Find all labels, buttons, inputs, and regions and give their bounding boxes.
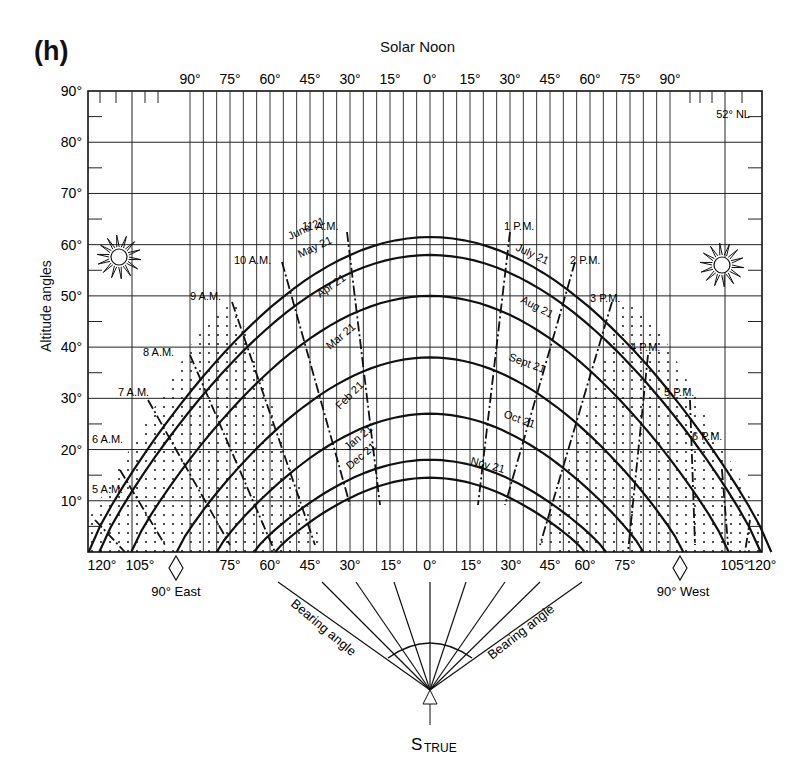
svg-text:75°: 75°: [614, 557, 635, 573]
svg-text:60°: 60°: [259, 71, 280, 87]
svg-text:Apr 21: Apr 21: [314, 271, 347, 299]
bearing-fan: STRUEBearing angleBearing angle: [278, 582, 582, 755]
svg-text:60°: 60°: [259, 557, 280, 573]
svg-text:75°: 75°: [619, 71, 640, 87]
svg-text:8 A.M.: 8 A.M.: [143, 346, 174, 358]
svg-text:50°: 50°: [61, 288, 82, 304]
svg-text:Bearing angle: Bearing angle: [288, 596, 359, 659]
svg-text:15°: 15°: [380, 557, 401, 573]
svg-text:120°: 120°: [88, 557, 117, 573]
svg-text:40°: 40°: [61, 339, 82, 355]
svg-text:30°: 30°: [499, 71, 520, 87]
svg-text:60°: 60°: [579, 71, 600, 87]
svg-text:52° NL: 52° NL: [716, 108, 750, 120]
svg-text:90°: 90°: [179, 71, 200, 87]
svg-text:45°: 45°: [539, 71, 560, 87]
svg-text:1 P.M.: 1 P.M.: [504, 220, 534, 232]
sun-path-chart: 10°20°30°40°50°60°70°80°90°90°75°60°45°3…: [0, 0, 806, 769]
svg-text:75°: 75°: [219, 557, 240, 573]
svg-text:60°: 60°: [61, 237, 82, 253]
svg-text:May 21: May 21: [296, 234, 334, 260]
svg-text:Nov 21: Nov 21: [469, 454, 506, 475]
svg-text:90° East: 90° East: [151, 584, 201, 599]
svg-text:70°: 70°: [61, 185, 82, 201]
svg-text:75°: 75°: [219, 71, 240, 87]
svg-text:30°: 30°: [500, 557, 521, 573]
svg-text:6 A.M.: 6 A.M.: [92, 433, 123, 445]
svg-text:3 P.M.: 3 P.M.: [590, 292, 620, 304]
svg-text:90°: 90°: [659, 71, 680, 87]
svg-text:15°: 15°: [460, 557, 481, 573]
svg-text:105°: 105°: [126, 557, 155, 573]
svg-text:7 A.M.: 7 A.M.: [118, 386, 149, 398]
svg-text:Sept 21: Sept 21: [507, 351, 547, 375]
svg-text:2 P.M.: 2 P.M.: [570, 254, 600, 266]
svg-text:9 A.M.: 9 A.M.: [190, 290, 221, 302]
svg-text:45°: 45°: [539, 557, 560, 573]
svg-text:120°: 120°: [748, 557, 777, 573]
svg-text:5 A.M.: 5 A.M.: [92, 483, 123, 495]
svg-text:20°: 20°: [61, 442, 82, 458]
svg-text:Oct 21: Oct 21: [502, 408, 537, 430]
svg-text:105°: 105°: [721, 557, 750, 573]
svg-text:15°: 15°: [459, 71, 480, 87]
svg-text:80°: 80°: [61, 134, 82, 150]
svg-text:0°: 0°: [423, 71, 436, 87]
svg-text:30°: 30°: [339, 557, 360, 573]
svg-text:60°: 60°: [574, 557, 595, 573]
svg-text:90° West: 90° West: [657, 584, 710, 599]
svg-text:15°: 15°: [379, 71, 400, 87]
svg-text:30°: 30°: [339, 71, 360, 87]
svg-text:6 P.M.: 6 P.M.: [692, 430, 722, 442]
svg-text:30°: 30°: [61, 390, 82, 406]
svg-text:4 P.M.: 4 P.M.: [630, 341, 660, 353]
svg-text:5 P.M.: 5 P.M.: [664, 386, 694, 398]
svg-text:0°: 0°: [423, 557, 436, 573]
svg-text:Bearing angle: Bearing angle: [485, 601, 557, 662]
svg-text:TRUE: TRUE: [424, 741, 457, 755]
svg-text:45°: 45°: [299, 557, 320, 573]
svg-text:10 A.M.: 10 A.M.: [234, 254, 271, 266]
svg-text:10°: 10°: [61, 493, 82, 509]
svg-text:S: S: [411, 735, 422, 754]
sun-icons: [97, 235, 744, 287]
svg-text:90°: 90°: [61, 83, 82, 99]
svg-text:45°: 45°: [299, 71, 320, 87]
